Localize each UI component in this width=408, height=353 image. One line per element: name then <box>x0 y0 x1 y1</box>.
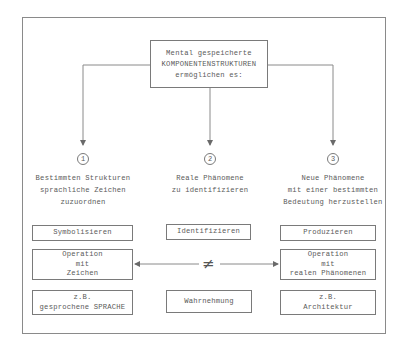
box-label: Wahrnehmung <box>184 297 234 307</box>
box-label: Identifizieren <box>177 227 240 237</box>
identifizieren-box: Identifizieren <box>166 224 251 240</box>
box-label: gesprochene SPRACHE <box>40 303 126 313</box>
description-line: Bedeutung herzustellen <box>268 196 398 208</box>
box-label: z.B. <box>319 293 337 303</box>
branch-3-description: Neue Phänomene mit einer bestimmten Bede… <box>268 172 398 208</box>
number-circle-3: 3 <box>327 153 339 165</box>
produzieren-box: Produzieren <box>280 225 376 241</box>
wahrnehmung-box: Wahrnehmung <box>166 290 252 313</box>
box-label: Operation <box>62 250 103 260</box>
description-line: Neue Phänomene <box>268 172 398 184</box>
description-line: sprachliche Zeichen <box>23 184 143 196</box>
box-label: z.B. <box>73 293 91 303</box>
description-line: Reale Phänomene <box>150 172 270 184</box>
top-box-line: Mental gespeicherte <box>166 48 252 59</box>
branch-1-description: Bestimmten Strukturen sprachliche Zeiche… <box>23 172 143 208</box>
number-circle-1: 1 <box>77 153 89 165</box>
description-line: zuzuordnen <box>23 196 143 208</box>
box-label: realen Phänomenen <box>290 269 367 279</box>
operation-zeichen-box: Operation mit Zeichen <box>32 249 133 280</box>
description-line: zu identifizieren <box>150 184 270 196</box>
symbolisieren-box: Symbolisieren <box>32 225 133 241</box>
box-label: mit <box>76 260 90 270</box>
box-label: Operation <box>308 250 349 260</box>
description-line: mit einer bestimmten <box>268 184 398 196</box>
top-box: Mental gespeicherte KOMPONENTENSTRUKTURE… <box>150 40 268 88</box>
operation-phaenomenen-box: Operation mit realen Phänomenen <box>280 249 376 280</box>
example-sprache-box: z.B. gesprochene SPRACHE <box>32 290 133 315</box>
branch-2-description: Reale Phänomene zu identifizieren <box>150 172 270 196</box>
box-label: Zeichen <box>67 269 99 279</box>
top-box-line: KOMPONENTENSTRUKTUREN <box>162 59 257 70</box>
box-label: Symbolisieren <box>53 228 112 238</box>
not-equal-symbol: ≠ <box>199 256 218 272</box>
box-label: Produzieren <box>303 228 353 238</box>
top-box-line: ermöglichen es: <box>175 70 243 81</box>
box-label: Architektur <box>303 303 353 313</box>
box-label: mit <box>321 260 335 270</box>
number-circle-2: 2 <box>204 153 216 165</box>
description-line: Bestimmten Strukturen <box>23 172 143 184</box>
example-architektur-box: z.B. Architektur <box>280 290 376 315</box>
